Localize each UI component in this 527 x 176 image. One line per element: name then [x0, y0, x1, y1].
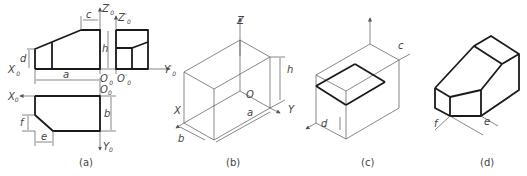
svg-text:O: O [246, 89, 254, 100]
front-view-outline [35, 30, 100, 69]
svg-text:Y0: Y0 [103, 141, 113, 153]
caption-b: (b) [226, 157, 240, 168]
svg-text:O″0: O″0 [117, 73, 131, 86]
top-view-outline [35, 96, 100, 131]
svg-text:b: b [104, 108, 110, 119]
svg-text:h: h [287, 64, 293, 75]
panel-d: f e (d) [434, 36, 519, 168]
svg-text:Z: Z [236, 15, 245, 26]
side-view-inner [116, 48, 132, 69]
svg-text:f: f [20, 117, 25, 128]
svg-text:Y″0: Y″0 [164, 64, 176, 77]
svg-text:Z′0: Z′0 [101, 3, 114, 16]
svg-text:a: a [247, 107, 253, 118]
svg-text:h: h [102, 43, 108, 54]
caption-c: (c) [361, 157, 374, 168]
svg-text:d: d [321, 118, 328, 129]
svg-text:X: X [173, 105, 182, 116]
panel-b: Z X Y O h a b (b) [173, 15, 295, 168]
svg-text:b: b [178, 133, 184, 144]
panel-c: c d (c) [306, 18, 410, 168]
svg-text:Y: Y [288, 104, 295, 115]
svg-text:a: a [63, 69, 69, 80]
svg-text:d: d [20, 53, 27, 64]
panel-a: Z′0 Z″0 Y″0 X′0 O′0 O″0 O0 X0 Y0 c d h a… [7, 3, 176, 168]
side-view-slope [132, 42, 148, 48]
svg-text:c: c [86, 9, 92, 20]
technical-drawing: Z′0 Z″0 Y″0 X′0 O′0 O″0 O0 X0 Y0 c d h a… [0, 0, 527, 176]
svg-text:c: c [398, 40, 404, 51]
svg-text:e: e [484, 116, 490, 127]
svg-text:X0: X0 [7, 91, 19, 103]
svg-text:e: e [41, 131, 47, 142]
caption-d: (d) [480, 157, 494, 168]
svg-text:X′0: X′0 [7, 64, 20, 77]
caption-a: (a) [79, 157, 93, 168]
svg-text:Z″0: Z″0 [117, 12, 131, 25]
